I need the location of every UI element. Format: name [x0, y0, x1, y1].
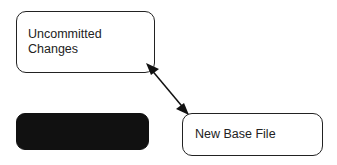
bidirectional-arrow [0, 0, 337, 165]
arrowhead-icon [176, 103, 189, 115]
arrowhead-icon [146, 63, 159, 75]
